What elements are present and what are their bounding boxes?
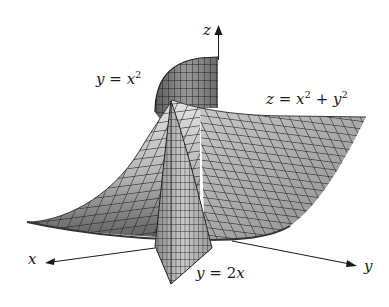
y-axis-label: y: [364, 259, 372, 274]
z-axis-label: z: [203, 23, 211, 38]
x-axis-arrow-icon: [45, 258, 55, 265]
surface-diagram: [0, 0, 389, 307]
cylinder-equation-label: y = x2: [96, 72, 141, 87]
plane-equation-label: y = 2x: [196, 266, 245, 281]
z-axis-arrow-icon: [215, 25, 223, 35]
y-axis: [232, 241, 350, 264]
paraboloid-equation-label: z = x2 + y2: [266, 92, 348, 107]
x-axis: [52, 248, 155, 262]
x-axis-label: x: [28, 252, 36, 267]
y-axis-arrow-icon: [346, 260, 357, 267]
